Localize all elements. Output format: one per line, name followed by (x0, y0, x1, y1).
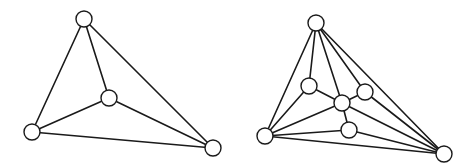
node-left (24, 124, 40, 140)
node-inner-right (357, 84, 373, 100)
node-bottom-right (436, 146, 452, 162)
node-lower (341, 122, 357, 138)
node-top (76, 11, 92, 27)
node-right (205, 140, 221, 156)
node-bottom-left (257, 128, 273, 144)
graph-figure (0, 0, 473, 168)
node-top (308, 15, 324, 31)
node-inner-left (301, 78, 317, 94)
node-center (101, 90, 117, 106)
node-center (334, 95, 350, 111)
